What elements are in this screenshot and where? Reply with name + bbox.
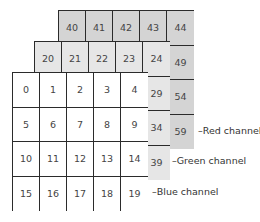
blue-channel-cell: 0 — [13, 73, 40, 108]
red-channel-cell: 54 — [167, 80, 194, 115]
red-channel-cell: 49 — [167, 46, 194, 81]
blue-channel-cell: 15 — [13, 177, 40, 212]
blue-channel-cell: 9 — [121, 108, 148, 143]
blue-channel-cell: 4 — [121, 73, 148, 108]
blue-channel-cell: 13 — [94, 142, 121, 177]
blue-channel-cell: 12 — [67, 142, 94, 177]
blue-channel-cell: 19 — [121, 177, 148, 212]
blue-channel-cell: 7 — [67, 108, 94, 143]
blue-channel-cell: 3 — [94, 73, 121, 108]
blue-channel-cell: 11 — [40, 142, 67, 177]
blue-channel-cell: 8 — [94, 108, 121, 143]
blue-channel-cell: 16 — [40, 177, 67, 212]
blue-channel-label: –Blue channel — [152, 186, 218, 197]
red-channel-label: –Red channel — [198, 125, 260, 136]
blue-channel-cell: 18 — [94, 177, 121, 212]
blue-channel-cell: 10 — [13, 142, 40, 177]
green-channel-label: –Green channel — [172, 155, 246, 166]
red-channel-cell: 44 — [167, 11, 194, 46]
blue-channel-cell: 14 — [121, 142, 148, 177]
blue-channel-grid: 012345678910111213141516171819 — [12, 72, 148, 211]
blue-channel-cell: 5 — [13, 108, 40, 143]
red-channel-cell: 59 — [167, 115, 194, 150]
blue-channel-cell: 6 — [40, 108, 67, 143]
blue-channel-cell: 2 — [67, 73, 94, 108]
blue-channel-cell: 1 — [40, 73, 67, 108]
blue-channel-cell: 17 — [67, 177, 94, 212]
